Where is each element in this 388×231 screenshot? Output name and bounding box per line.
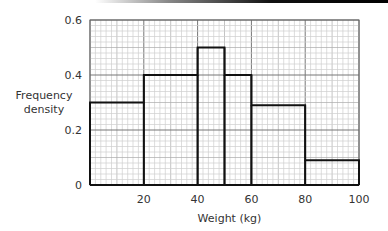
x-tick-label: 60 — [244, 193, 258, 206]
y-axis-label: Frequency — [16, 89, 73, 102]
x-tick-label: 100 — [349, 193, 370, 206]
histogram-chart: 2040608010000.20.40.6Weight (kg)Frequenc… — [0, 0, 388, 231]
x-axis-label: Weight (kg) — [198, 212, 262, 225]
y-tick-label: 0.4 — [65, 69, 83, 82]
x-tick-label: 20 — [137, 193, 151, 206]
x-tick-label: 40 — [191, 193, 205, 206]
y-tick-label: 0 — [75, 179, 82, 192]
y-tick-label: 0.6 — [65, 14, 83, 27]
x-tick-label: 80 — [298, 193, 312, 206]
y-tick-label: 0.2 — [65, 124, 83, 137]
y-axis-label: density — [24, 103, 65, 116]
